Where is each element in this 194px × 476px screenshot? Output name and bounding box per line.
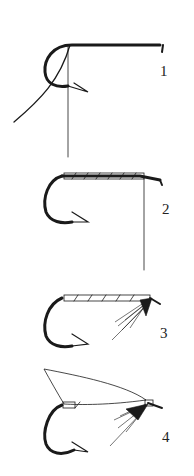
step-label-1: 1	[160, 63, 168, 79]
step-label-2: 2	[162, 201, 170, 217]
step-label-3: 3	[160, 325, 168, 341]
step-4-hackle	[110, 404, 148, 446]
fly-tying-diagram: 1 2 3 4	[0, 0, 194, 476]
step-3-hackle	[112, 298, 152, 340]
step-2-hook	[45, 173, 162, 270]
step-1-hook	[14, 45, 163, 157]
step-4-wing	[44, 369, 146, 405]
step-label-4: 4	[162, 429, 170, 445]
